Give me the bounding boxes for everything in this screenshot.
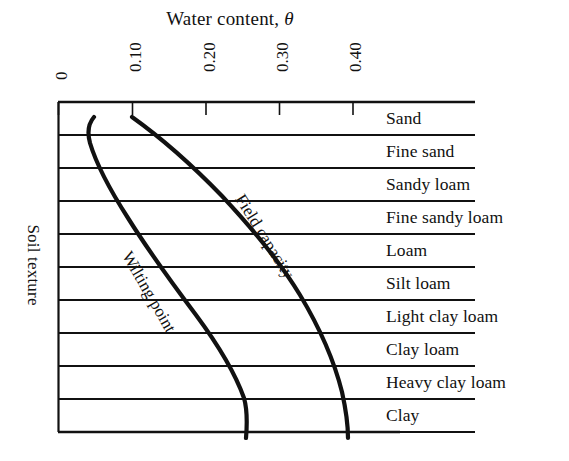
- x-axis-ticks: [59, 102, 354, 115]
- water-content-soil-texture-figure: Water content, θ Soil texture 0 0.10 0.2…: [0, 0, 569, 461]
- row-label-fine-sand: Fine sand: [386, 141, 454, 162]
- row-label-sand: Sand: [386, 108, 421, 129]
- wilting-point-curve: [88, 117, 247, 438]
- row-label-sandy-loam: Sandy loam: [386, 174, 470, 195]
- row-label-clay: Clay: [386, 405, 419, 426]
- row-label-light-clay-loam: Light clay loam: [386, 306, 498, 327]
- row-label-clay-loam: Clay loam: [386, 339, 459, 360]
- row-label-silt-loam: Silt loam: [386, 273, 451, 294]
- row-label-fine-sandy-loam: Fine sandy loam: [386, 207, 503, 228]
- row-label-heavy-clay-loam: Heavy clay loam: [386, 372, 506, 393]
- row-label-loam: Loam: [386, 240, 427, 261]
